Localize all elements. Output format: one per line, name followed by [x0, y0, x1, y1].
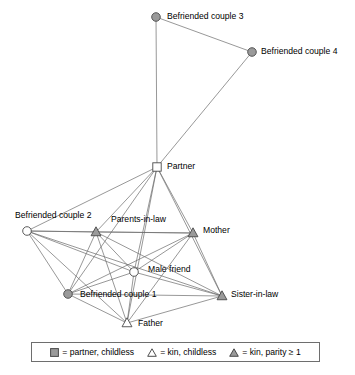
circle-marker [152, 13, 161, 22]
edge-mother-father [127, 233, 193, 323]
edge-befriended_couple_3-partner [156, 17, 157, 167]
edge-befriended_couple_2-father [27, 231, 127, 323]
node-partner[interactable]: Partner [153, 161, 196, 171]
legend-item-label: = kin, parity ≥ 1 [242, 348, 300, 357]
circle-marker [23, 227, 32, 236]
edge-partner-father [127, 167, 157, 323]
edge-layer [27, 17, 252, 323]
kin-parity-icon [229, 348, 239, 357]
legend-item: = kin, childless [147, 348, 216, 357]
sociogram-canvas: Befriended couple 3Befriended couple 4Pa… [0, 0, 355, 375]
edge-befriended_couple_2-sister_in_law [27, 231, 222, 296]
edge-mother-sister_in_law [193, 233, 222, 296]
kin-childless-icon [147, 348, 157, 357]
node-mother[interactable]: Mother [188, 225, 230, 236]
node-label-befriended_couple_1: Befriended couple 1 [80, 289, 157, 299]
edge-befriended_couple_2-befriended_couple_1 [27, 231, 68, 294]
node-label-befriended_couple_2: Befriended couple 2 [15, 210, 92, 220]
legend-item: = kin, parity ≥ 1 [229, 348, 300, 357]
node-label-sister_in_law: Sister-in-law [231, 289, 279, 299]
node-label-befriended_couple_3: Befriended couple 3 [167, 11, 244, 21]
node-label-mother: Mother [203, 225, 230, 235]
node-father[interactable]: Father [122, 318, 163, 328]
square-marker [153, 163, 161, 171]
node-befriended_couple_3[interactable]: Befriended couple 3 [152, 11, 244, 21]
circle-marker [130, 268, 139, 277]
legend-item-label: = kin, childless [160, 348, 216, 357]
node-male_friend[interactable]: Male friend [130, 264, 191, 276]
edge-parents_in_law-befriended_couple_1 [68, 232, 96, 294]
legend-item: = partner, childless [50, 348, 134, 357]
edge-befriended_couple_3-befriended_couple_4 [156, 17, 252, 52]
node-label-partner: Partner [167, 161, 195, 171]
circle-marker [248, 48, 257, 57]
legend-item-label: = partner, childless [62, 348, 134, 357]
node-sister_in_law[interactable]: Sister-in-law [217, 289, 279, 299]
node-label-befriended_couple_4: Befriended couple 4 [261, 46, 338, 56]
node-label-male_friend: Male friend [148, 264, 191, 274]
node-label-parents_in_law: Parents-in-law [111, 214, 167, 224]
node-label-father: Father [138, 318, 163, 328]
network-diagram: Befriended couple 3Befriended couple 4Pa… [0, 0, 355, 375]
node-befriended_couple_4[interactable]: Befriended couple 4 [248, 46, 338, 56]
legend: = partner, childless = kin, childless = … [31, 342, 320, 362]
partner-childless-icon [50, 348, 59, 357]
edge-befriended_couple_4-partner [157, 52, 252, 167]
edge-parents_in_law-male_friend [96, 232, 134, 272]
circle-marker [64, 290, 73, 299]
